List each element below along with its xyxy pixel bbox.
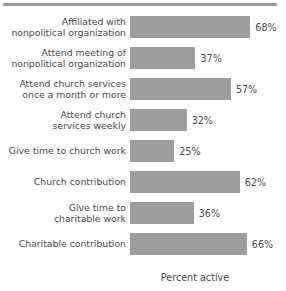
bar-category-label: Attend church services once a month or m… [2, 78, 126, 100]
bar-row: Charitable contribution66% [0, 233, 286, 255]
bar-value-label: 57% [236, 84, 257, 95]
bar-row: Give time to church work25% [0, 140, 286, 162]
bar-fill [130, 171, 240, 193]
bar-value-label: 68% [255, 22, 276, 33]
top-divider-rule [3, 3, 277, 6]
bar-row: Attend church services once a month or m… [0, 78, 286, 100]
bar-chart-figure: Affiliated with nonpolitical organizatio… [0, 0, 286, 291]
bar-category-label: Attend meeting of nonpolitical organizat… [2, 47, 126, 69]
bar-track [130, 171, 240, 193]
bar-fill [130, 78, 231, 100]
bar-track [130, 109, 187, 131]
bar-category-label: Give time to church work [2, 145, 126, 156]
bar-value-label: 32% [192, 115, 213, 126]
bar-row: Church contribution62% [0, 171, 286, 193]
bar-fill [130, 16, 250, 38]
bar-track [130, 47, 195, 69]
bar-row: Affiliated with nonpolitical organizatio… [0, 16, 286, 38]
bar-fill [130, 140, 174, 162]
bar-fill [130, 202, 194, 224]
bar-track [130, 202, 194, 224]
plot-area: Affiliated with nonpolitical organizatio… [0, 16, 286, 264]
bar-category-label: Give time to charitable work [2, 202, 126, 224]
bar-row: Attend church services weekly32% [0, 109, 286, 131]
bar-track [130, 16, 250, 38]
bar-fill [130, 47, 195, 69]
bar-track [130, 140, 174, 162]
bar-category-label: Church contribution [2, 176, 126, 187]
bar-fill [130, 233, 247, 255]
bar-row: Give time to charitable work36% [0, 202, 286, 224]
bar-track [130, 78, 231, 100]
bar-value-label: 66% [252, 239, 273, 250]
bar-category-label: Affiliated with nonpolitical organizatio… [2, 16, 126, 38]
bar-fill [130, 109, 187, 131]
bar-track [130, 233, 247, 255]
bar-category-label: Attend church services weekly [2, 109, 126, 131]
x-axis-title: Percent active [130, 272, 260, 283]
bar-category-label: Charitable contribution [2, 238, 126, 249]
bar-value-label: 36% [199, 208, 220, 219]
bar-value-label: 62% [245, 177, 266, 188]
bar-value-label: 37% [200, 53, 221, 64]
bar-row: Attend meeting of nonpolitical organizat… [0, 47, 286, 69]
bar-value-label: 25% [179, 146, 200, 157]
